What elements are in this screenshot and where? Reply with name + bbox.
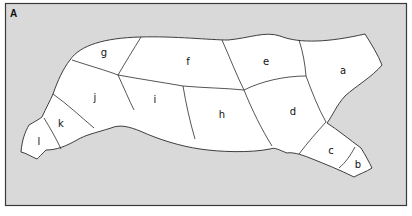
diagram-figure: A a b c d e f g h i j k l (0, 0, 412, 216)
region-label-l: l (38, 136, 41, 147)
panel-label: A (10, 8, 17, 19)
region-label-a: a (340, 65, 346, 76)
region-label-g: g (101, 47, 107, 58)
region-label-h: h (219, 109, 225, 120)
region-label-j: j (93, 92, 97, 103)
region-label-i: i (154, 94, 157, 105)
region-label-f: f (186, 56, 190, 67)
region-label-c: c (328, 145, 334, 156)
region-label-e: e (263, 56, 269, 67)
region-label-d: d (290, 106, 296, 117)
region-label-k: k (58, 118, 64, 129)
region-label-b: b (355, 159, 361, 170)
